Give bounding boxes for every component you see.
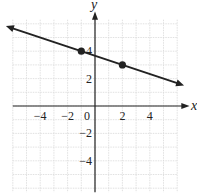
x-tick-label: −4	[34, 109, 47, 123]
y-tick-label: 4	[86, 44, 92, 58]
x-axis-arrow	[181, 103, 189, 109]
line-arrow-right	[175, 80, 184, 87]
y-axis-arrow	[92, 11, 98, 19]
x-tick-label: −2	[61, 109, 74, 123]
coordinate-plane: −4−202442−2−4 x y	[0, 0, 197, 195]
y-tick-label: −4	[79, 154, 92, 168]
x-tick-label: 4	[147, 109, 153, 123]
y-tick-label: −2	[79, 126, 92, 140]
x-tick-label: 2	[119, 109, 125, 123]
x-axis-label: x	[190, 98, 197, 113]
data-point	[119, 61, 126, 68]
x-tick-label: 0	[84, 109, 90, 123]
y-tick-label: 2	[86, 72, 92, 86]
data-point	[78, 48, 85, 55]
line-arrow-left	[6, 25, 15, 32]
axes	[13, 11, 190, 192]
y-axis-label: y	[89, 0, 98, 12]
